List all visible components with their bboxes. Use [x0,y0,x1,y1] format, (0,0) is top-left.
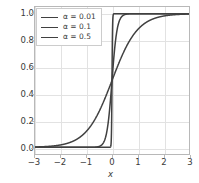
x-tick-label: 1 [126,158,150,167]
x-tick-mark [60,155,61,158]
y-tick-label: 0.6 [4,63,34,72]
legend-label: α = 0.01 [63,13,96,21]
y-tick-label: 0.4 [4,90,34,99]
x-tick-mark [86,155,87,158]
x-tick-label: −1 [74,158,98,167]
x-tick-mark [138,155,139,158]
legend-line-icon [41,37,58,38]
x-tick-label: 3 [178,158,199,167]
y-tick-mark [31,13,34,14]
x-axis-label: x [0,170,199,179]
y-tick-mark [31,67,34,68]
legend-item: α = 0.01 [41,12,96,22]
y-tick-mark [31,40,34,41]
y-tick-label: 0.8 [4,36,34,45]
legend: α = 0.01α = 0.1α = 0.5 [36,8,102,46]
x-tick-mark [190,155,191,158]
x-tick-label: 2 [152,158,176,167]
y-tick-label: 1.0 [4,9,34,18]
x-tick-label: −3 [22,158,46,167]
y-tick-label: 0.0 [4,144,34,153]
x-tick-label: 0 [100,158,124,167]
x-tick-mark [34,155,35,158]
legend-item: α = 0.1 [41,22,96,32]
x-tick-label: −2 [48,158,72,167]
y-tick-mark [31,148,34,149]
x-axis-label-text: x [86,169,113,179]
legend-item: α = 0.5 [41,32,96,42]
figure-canvas: 0.00.20.40.60.81.0 −3−2−10123 x α = 0.01… [0,0,199,183]
legend-line-icon [41,17,58,18]
y-tick-mark [31,121,34,122]
x-tick-mark [164,155,165,158]
legend-line-icon [41,27,58,28]
x-tick-mark [112,155,113,158]
y-tick-mark [31,94,34,95]
y-tick-label: 0.2 [4,117,34,126]
legend-label: α = 0.1 [63,23,91,31]
legend-label: α = 0.5 [63,33,91,41]
